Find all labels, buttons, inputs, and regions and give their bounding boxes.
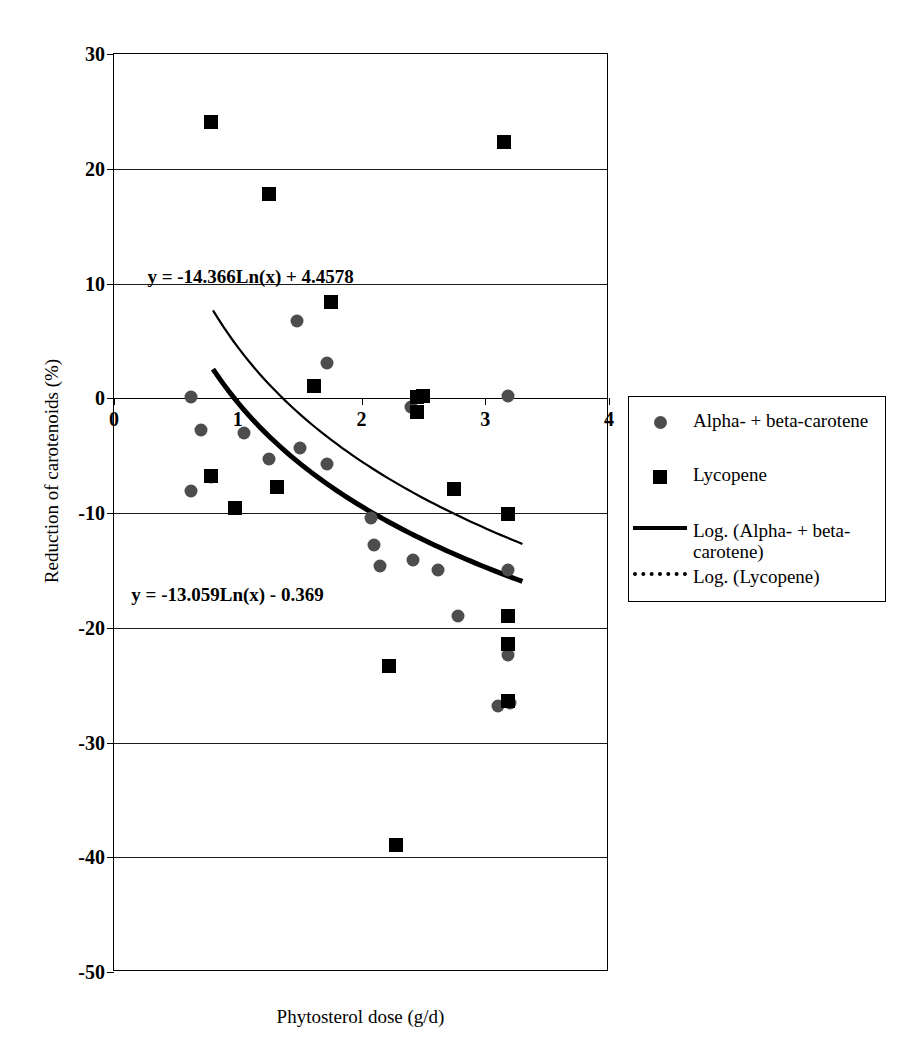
data-point-carotene — [291, 315, 304, 328]
y-axis-tick-mark — [107, 857, 114, 858]
legend-dotted-line-icon — [633, 572, 687, 576]
gridline-y — [114, 513, 607, 514]
y-axis-tick-mark — [107, 398, 114, 399]
x-axis-title: Phytosterol dose (g/d) — [113, 1006, 608, 1028]
legend-circle-marker-icon — [654, 416, 667, 429]
equation-annotation: y = -14.366Ln(x) + 4.4578 — [147, 266, 353, 288]
data-point-carotene — [501, 389, 514, 402]
x-axis-tick-mark — [609, 398, 610, 405]
data-point-carotene — [432, 564, 445, 577]
data-point-lycopene — [501, 637, 515, 651]
legend-item[interactable]: Log. (Lycopene) — [629, 567, 885, 588]
data-point-carotene — [365, 511, 378, 524]
x-axis-tick-mark — [238, 398, 239, 405]
x-axis-tick-mark — [362, 398, 363, 405]
plot-area: 3020100-10-20-30-40-5001234y = -14.366Ln… — [113, 53, 608, 971]
data-point-carotene — [184, 485, 197, 498]
gridline-y — [114, 628, 607, 629]
data-point-carotene — [194, 424, 207, 437]
legend-item[interactable]: Lycopene — [629, 465, 885, 486]
gridline-y — [114, 169, 607, 170]
x-axis-tick-label: 3 — [480, 408, 490, 431]
x-axis-tick-mark — [114, 398, 115, 405]
y-axis-tick-mark — [107, 513, 114, 514]
y-axis-tick-label: -20 — [78, 616, 105, 639]
legend-key — [629, 465, 691, 484]
y-axis-tick-label: 20 — [85, 157, 105, 180]
data-point-carotene — [407, 554, 420, 567]
scatter-chart-figure: Reduction of carotenoids (%) Phytosterol… — [0, 0, 923, 1061]
data-point-lycopene — [307, 379, 321, 393]
y-axis-tick-label: -40 — [78, 846, 105, 869]
legend-label: Log. (Alpha- + beta-carotene) — [691, 521, 885, 562]
legend-key — [629, 567, 691, 576]
trendline-carotene — [213, 369, 522, 581]
data-point-lycopene — [382, 659, 396, 673]
data-point-lycopene — [416, 389, 430, 403]
gridline-y — [114, 743, 607, 744]
legend-solid-line-icon — [633, 526, 687, 530]
data-point-carotene — [452, 610, 465, 623]
data-point-carotene — [320, 356, 333, 369]
x-axis-tick-label: 0 — [109, 408, 119, 431]
data-point-carotene — [237, 426, 250, 439]
y-axis-tick-label: 30 — [85, 43, 105, 66]
data-point-carotene — [293, 441, 306, 454]
data-point-carotene — [501, 564, 514, 577]
data-point-lycopene — [497, 135, 511, 149]
x-axis-tick-label: 4 — [604, 408, 614, 431]
data-point-carotene — [374, 559, 387, 572]
data-point-lycopene — [447, 482, 461, 496]
data-point-lycopene — [262, 187, 276, 201]
data-point-lycopene — [501, 609, 515, 623]
data-point-carotene — [320, 457, 333, 470]
gridline-y — [114, 857, 607, 858]
y-axis-title: Reduction of carotenoids (%) — [41, 321, 63, 621]
data-point-lycopene — [410, 405, 424, 419]
data-point-carotene — [367, 539, 380, 552]
y-axis-tick-mark — [107, 972, 114, 973]
chart-legend: Alpha- + beta-caroteneLycopeneLog. (Alph… — [628, 396, 886, 602]
y-axis-tick-label: 10 — [85, 272, 105, 295]
data-point-carotene — [262, 453, 275, 466]
data-point-lycopene — [228, 501, 242, 515]
y-axis-tick-mark — [107, 284, 114, 285]
data-point-lycopene — [270, 480, 284, 494]
legend-key — [629, 411, 691, 429]
data-point-carotene — [184, 391, 197, 404]
y-axis-tick-label: -10 — [78, 502, 105, 525]
legend-label: Alpha- + beta-carotene — [691, 411, 868, 432]
y-axis-tick-mark — [107, 628, 114, 629]
equation-annotation: y = -13.059Ln(x) - 0.369 — [131, 584, 323, 606]
legend-square-marker-icon — [653, 470, 667, 484]
y-axis-tick-label: -30 — [78, 731, 105, 754]
legend-label: Lycopene — [691, 465, 767, 486]
y-axis-tick-label: 0 — [95, 387, 105, 410]
data-point-lycopene — [501, 694, 515, 708]
y-axis-tick-mark — [107, 743, 114, 744]
y-axis-tick-label: -50 — [78, 961, 105, 984]
x-axis-tick-mark — [485, 398, 486, 405]
legend-key — [629, 521, 691, 530]
legend-item[interactable]: Alpha- + beta-carotene — [629, 411, 885, 432]
data-point-lycopene — [204, 469, 218, 483]
data-point-lycopene — [204, 115, 218, 129]
x-axis-tick-label: 2 — [357, 408, 367, 431]
legend-item[interactable]: Log. (Alpha- + beta-carotene) — [629, 521, 885, 562]
data-point-lycopene — [501, 507, 515, 521]
data-point-lycopene — [389, 838, 403, 852]
y-axis-tick-mark — [107, 54, 114, 55]
y-axis-tick-mark — [107, 169, 114, 170]
legend-label: Log. (Lycopene) — [691, 567, 820, 588]
data-point-lycopene — [324, 295, 338, 309]
